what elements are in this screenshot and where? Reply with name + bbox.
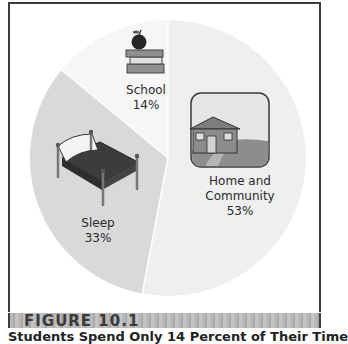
school-name: School — [118, 83, 174, 98]
pie-chart — [0, 0, 328, 312]
slice-label-home: Home and Community 53% — [195, 174, 285, 219]
sleep-value: 33% — [68, 231, 128, 246]
figure-caption: Students Spend Only 14 Percent of Their … — [8, 329, 348, 344]
house-icon — [190, 93, 269, 167]
slice-label-school: School 14% — [118, 83, 174, 113]
school-value: 14% — [118, 98, 174, 113]
sleep-name: Sleep — [68, 216, 128, 231]
figure-label: FIGURE 10.1 — [24, 312, 139, 330]
home-name-line2: Community — [195, 189, 285, 204]
home-name-line1: Home and — [195, 174, 285, 189]
figure-band: FIGURE 10.1 — [8, 313, 321, 328]
home-value: 53% — [195, 204, 285, 219]
slice-label-sleep: Sleep 33% — [68, 216, 128, 246]
